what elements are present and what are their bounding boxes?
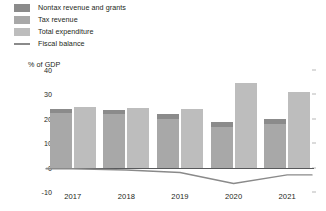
x-axis-tick-label: 2020 <box>225 192 242 201</box>
x-axis-tick-label: 2017 <box>64 192 81 201</box>
legend-swatch-icon-expenditure <box>14 28 30 36</box>
legend-label-fiscal-balance: Fiscal balance <box>38 39 85 49</box>
x-axis-tick-label: 2018 <box>118 192 135 201</box>
plot-area: 403020100-10 <box>0 70 326 192</box>
chart-legend: Nontax revenue and grants Tax revenue To… <box>14 2 314 50</box>
x-axis-labels: 20172018201920202021 <box>0 192 326 208</box>
legend-item-nontax-revenue-and-grants: Nontax revenue and grants <box>14 2 314 14</box>
x-axis-tick-label: 2019 <box>171 192 188 201</box>
legend-swatch-icon-nontax <box>14 4 30 12</box>
legend-label-tax: Tax revenue <box>38 15 78 25</box>
x-axis-tick-label: 2021 <box>279 192 296 201</box>
legend-label-nontax: Nontax revenue and grants <box>38 3 126 13</box>
legend-item-total-expenditure: Total expenditure <box>14 26 314 38</box>
legend-label-expenditure: Total expenditure <box>38 27 94 37</box>
legend-swatch-icon-tax <box>14 16 30 24</box>
fiscal-balance-line <box>0 70 326 192</box>
legend-line-icon-fiscal-balance <box>14 40 30 48</box>
legend-item-fiscal-balance: Fiscal balance <box>14 38 314 50</box>
fiscal-indicators-chart: Nontax revenue and grants Tax revenue To… <box>0 0 326 211</box>
legend-item-tax-revenue: Tax revenue <box>14 14 314 26</box>
